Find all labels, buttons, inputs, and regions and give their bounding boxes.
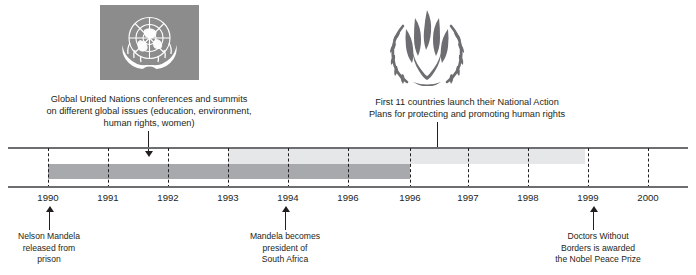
callout-mandela-released: Nelson Mandela released from prison (0, 231, 98, 266)
year-label-1998-8: 1998 (505, 192, 551, 203)
un-human-rights-emblem (379, 2, 475, 86)
year-label-1993-3: 1993 (205, 192, 251, 203)
callout-mandela-president: Mandela becomes president of South Afric… (223, 231, 347, 266)
callout-national-action-plans: First 11 countries launch their National… (322, 96, 612, 120)
year-label-1997-7: 1997 (445, 192, 491, 203)
year-label-2000-10: 2000 (625, 192, 671, 203)
timeline-infographic: Global United Nations conferences and su… (0, 0, 696, 275)
timeline-tick (108, 148, 109, 188)
year-label-1999-9: 1999 (565, 192, 611, 203)
year-label-1991-1: 1991 (85, 192, 131, 203)
year-label-1990-0: 1990 (25, 192, 71, 203)
timeline-tick (348, 148, 349, 188)
year-label-1996-5: 1996 (325, 192, 371, 203)
arrow-down-icon-un-conferences (143, 131, 154, 157)
timeline-tick (648, 148, 649, 188)
year-label-1994-4: 1994 (265, 192, 311, 203)
united-nations-emblem (100, 5, 199, 80)
timeline-tick (228, 148, 229, 188)
timeline-bar-dark-band (48, 164, 410, 179)
timeline-tick (410, 148, 411, 188)
timeline-tick (48, 148, 49, 188)
arrow-up-icon-mandela-president (280, 206, 291, 230)
year-label-1996-6: 1996 (387, 192, 433, 203)
arrow-up-icon-mandela-released (44, 206, 55, 230)
timeline-tick (528, 148, 529, 188)
timeline-bar-light-band (228, 149, 585, 164)
timeline-tick (588, 148, 589, 188)
callout-msf-nobel: Doctors Without Borders is awarded the N… (518, 231, 678, 266)
year-label-1992-2: 1992 (145, 192, 191, 203)
timeline-tick (288, 148, 289, 188)
timeline-tick (468, 148, 469, 188)
callout-un-conferences: Global United Nations conferences and su… (14, 93, 284, 130)
timeline-axis-rule (8, 186, 688, 188)
timeline-tick (168, 148, 169, 188)
arrow-up-icon-msf-nobel (588, 206, 599, 230)
